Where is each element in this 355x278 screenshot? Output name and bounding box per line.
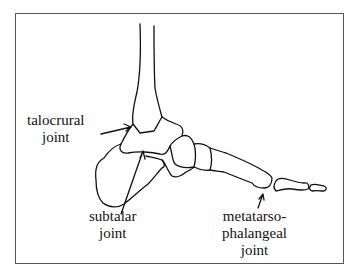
cuboid-bone bbox=[162, 160, 194, 177]
mtp-arrow bbox=[258, 194, 264, 208]
metatarsal-bone bbox=[210, 148, 272, 188]
label-metatarsophalangeal-joint: metatarso- phalangeal joint bbox=[222, 208, 287, 259]
label-talocrural-joint: talocrural joint bbox=[27, 112, 84, 146]
label-subtalar-joint: subtalar joint bbox=[89, 208, 136, 242]
cuneiform-bone bbox=[194, 144, 212, 171]
tibia-bone bbox=[133, 24, 162, 133]
distal-phalanx-bone bbox=[310, 184, 327, 191]
proximal-phalanx-bone bbox=[274, 179, 309, 191]
talus-bone bbox=[120, 117, 183, 154]
subtalar-arrow bbox=[121, 151, 145, 214]
navicular-bone bbox=[170, 135, 196, 167]
